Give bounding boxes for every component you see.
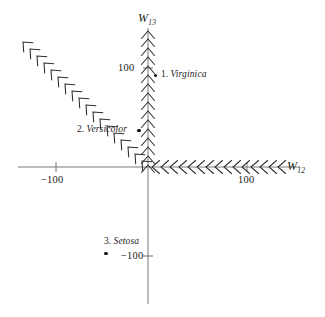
data-label-setosa-species: Setosa xyxy=(114,236,140,246)
data-label-virginica-species: Virginica xyxy=(171,69,207,79)
x-axis-title-text: W xyxy=(287,159,297,173)
data-label-versicolor-index: 2. xyxy=(77,124,84,134)
y-axis-title-subscript: 13 xyxy=(148,18,156,27)
x-tick-label-neg100: −100 xyxy=(41,175,63,186)
data-label-virginica-index: 1. xyxy=(161,69,168,79)
data-point-setosa xyxy=(104,252,108,256)
data-label-setosa-index: 3. xyxy=(104,236,111,246)
diagonal-vector-chain xyxy=(18,37,151,170)
x-axis-title: W12 xyxy=(287,160,305,172)
plot-canvas xyxy=(0,0,325,317)
x-tick-label-100: 100 xyxy=(238,175,254,186)
data-label-setosa: 3. Setosa xyxy=(104,237,139,247)
data-label-versicolor-species: Versicolor xyxy=(87,124,128,134)
y-axis-title-text: W xyxy=(138,11,148,25)
data-label-virginica: 1. Virginica xyxy=(161,70,207,80)
y-tick-label-100: 100 xyxy=(118,63,134,74)
y-axis-title: W13 xyxy=(138,12,156,24)
data-point-versicolor xyxy=(137,129,141,133)
scatter-plot-figure: W13 W12 100 −100 −100 100 1. Virginica 2… xyxy=(0,0,325,317)
data-point-virginica xyxy=(154,74,158,78)
x-axis-title-subscript: 12 xyxy=(297,166,305,175)
data-label-versicolor: 2. Versicolor xyxy=(77,125,127,135)
y-tick-label-neg100: −100 xyxy=(121,251,143,262)
